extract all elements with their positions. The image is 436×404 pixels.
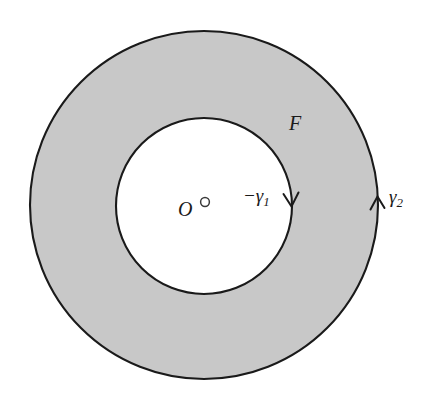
inner-curve-label-symbol: −γ [243,185,263,206]
annulus-figure-svg [0,0,436,404]
region-label-F: F [289,113,301,133]
outer-curve-label: γ2 [389,187,403,210]
outer-curve-label-subscript: 2 [397,195,403,210]
annulus-diagram: F O −γ1 γ2 [0,0,436,404]
outer-curve-label-symbol: γ [389,186,397,207]
shaded-annulus-region [0,0,436,404]
inner-curve-label: −γ1 [243,186,270,209]
origin-label-O: O [178,199,192,219]
inner-curve-label-subscript: 1 [263,194,269,209]
